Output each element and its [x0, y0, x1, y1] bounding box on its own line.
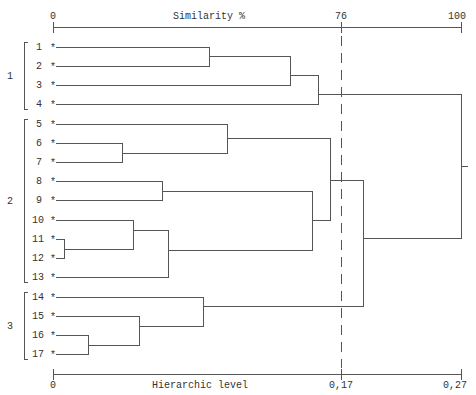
leaf-marker-icon: * [50, 62, 56, 73]
leaf-marker-icon: * [50, 158, 56, 169]
dendrogram-branches [56, 48, 468, 355]
branch-16-17 [56, 336, 89, 355]
leaf-label: 14 [32, 292, 44, 303]
branch-5-67 [56, 125, 228, 154]
leaf-label: 8 [36, 176, 42, 187]
bottom-axis: 0 Hierarchic level 0,17 0,27 [50, 369, 467, 391]
leaf-label: 9 [36, 195, 42, 206]
leaf-label: 1 [36, 42, 42, 53]
leaf-label: 2 [36, 61, 42, 72]
leaf-marker-icon: * [50, 350, 56, 361]
leaf-label: 15 [32, 311, 44, 322]
branch-1012-13 [56, 231, 169, 278]
leaf-label: 7 [36, 157, 42, 168]
dendrogram-chart: 0 Similarity % 76 100 0 Hierarchic level… [0, 0, 476, 395]
leaf-marker-icon: * [50, 43, 56, 54]
leaf-marker-icon: * [50, 81, 56, 92]
branch-123-4 [56, 76, 319, 105]
leaf-label: 11 [32, 234, 44, 245]
branch-8-9 [56, 182, 163, 201]
leaf-label: 10 [32, 215, 44, 226]
branch-6-7 [56, 144, 123, 163]
leaf-labels: 1 2 3 4 5 6 7 8 9 10 11 12 13 14 15 16 1… [32, 42, 44, 360]
group-brackets: 1 2 3 [7, 42, 28, 359]
top-axis: 0 Similarity % 76 100 [50, 11, 466, 33]
leaf-marker-icon: * [50, 293, 56, 304]
branch-cluster1-root [319, 95, 462, 238]
leaf-markers: * * * * * * * * * * * * * * * * * [50, 43, 56, 361]
leaf-marker-icon: * [50, 139, 56, 150]
leaf-marker-icon: * [50, 120, 56, 131]
group-label-1: 1 [7, 71, 13, 82]
bottom-tick-017: 0,17 [329, 380, 353, 391]
leaf-marker-icon: * [50, 312, 56, 323]
bottom-axis-label: Hierarchic level [152, 380, 248, 391]
leaf-marker-icon: * [50, 177, 56, 188]
leaf-marker-icon: * [50, 196, 56, 207]
leaf-label: 6 [36, 138, 42, 149]
branch-10-1112 [56, 221, 134, 250]
branch-12-3 [56, 57, 291, 86]
branch-89-1013 [163, 192, 313, 251]
leaf-marker-icon: * [50, 273, 56, 284]
branch-cluster2-cluster3 [204, 181, 364, 307]
branch-57-813 [228, 139, 331, 221]
leaf-marker-icon: * [50, 100, 56, 111]
leaf-label: 12 [32, 253, 44, 264]
leaf-marker-icon: * [50, 254, 56, 265]
top-tick-0: 0 [50, 11, 56, 22]
bottom-tick-027: 0,27 [443, 380, 467, 391]
top-tick-76: 76 [335, 11, 347, 22]
branch-1-2 [56, 48, 210, 67]
branch-14-1517 [56, 298, 204, 327]
leaf-marker-icon: * [50, 331, 56, 342]
top-tick-100: 100 [448, 11, 466, 22]
leaf-marker-icon: * [50, 216, 56, 227]
leaf-label: 4 [36, 99, 42, 110]
group-label-3: 3 [7, 321, 13, 332]
leaf-label: 3 [36, 80, 42, 91]
branch-15-1617 [56, 317, 140, 346]
leaf-marker-icon: * [50, 235, 56, 246]
leaf-label: 17 [32, 349, 44, 360]
bottom-tick-0: 0 [50, 380, 56, 391]
leaf-label: 13 [32, 272, 44, 283]
top-axis-label: Similarity % [173, 11, 245, 22]
leaf-label: 5 [36, 119, 42, 130]
branch-11-12 [56, 240, 65, 259]
leaf-label: 16 [32, 330, 44, 341]
group-label-2: 2 [7, 196, 13, 207]
